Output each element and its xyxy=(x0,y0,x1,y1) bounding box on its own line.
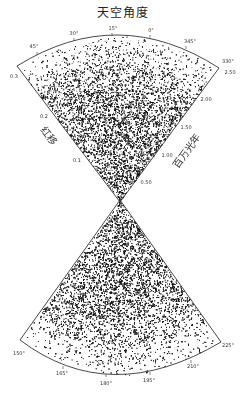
distance-tick-label: 1.50 xyxy=(180,124,191,130)
top-arc-ticks xyxy=(37,33,186,55)
bottom-angle-tick-label: 195° xyxy=(143,377,155,383)
bottom-angle-tick-label: 225° xyxy=(222,342,234,348)
top-angle-tick-label: 30° xyxy=(70,30,79,36)
wedge-outlines xyxy=(0,0,245,395)
distance-tick-label: 0.50 xyxy=(140,179,151,185)
bottom-wedge-outline xyxy=(20,200,221,375)
top-angle-tick-label: 330° xyxy=(222,58,234,64)
bottom-angle-tick-label: 150° xyxy=(13,350,25,356)
top-angle-tick-label: 345° xyxy=(184,38,196,44)
top-angle-tick-label: 45° xyxy=(30,43,39,49)
redshift-tick-label: 0.2 xyxy=(40,113,48,119)
redshift-survey-diagram: 天空角度 45°30°15°0°345°330°0.30.20.12.502.0… xyxy=(0,0,245,395)
top-angle-tick-label: 15° xyxy=(109,25,118,31)
top-angle-tick-label: 0° xyxy=(148,27,154,33)
redshift-tick-label: 0.3 xyxy=(10,73,18,79)
bottom-angle-tick-label: 210° xyxy=(187,363,199,369)
redshift-tick-label: 0.1 xyxy=(73,157,81,163)
distance-tick-label: 2.50 xyxy=(224,69,235,75)
distance-tick-label: 2.00 xyxy=(200,96,211,102)
bottom-angle-tick-label: 165° xyxy=(56,370,68,376)
bottom-angle-tick-label: 180° xyxy=(100,380,112,386)
